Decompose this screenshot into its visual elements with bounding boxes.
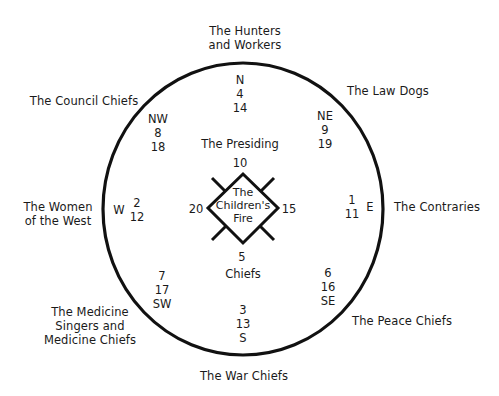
direction-south: 3 13 S [236, 303, 251, 345]
label-medicine-singers-and-medicine-chiefs: The Medicine Singers and Medicine Chiefs [44, 305, 136, 347]
presiding-caption: The Presiding [201, 137, 279, 151]
label-law-dogs: The Law Dogs [347, 84, 429, 98]
label-peace-chiefs: The Peace Chiefs [352, 314, 452, 328]
direction-southwest: 7 17 SW [153, 269, 172, 311]
direction-west-label: W [113, 203, 124, 217]
center-number-bottom: 5 [238, 250, 245, 264]
label-war-chiefs: The War Chiefs [200, 369, 288, 383]
childrens-fire-label: The Children's Fire [216, 186, 271, 225]
direction-northwest: NW 8 18 [148, 112, 168, 154]
chiefs-caption: Chiefs [225, 267, 261, 281]
direction-east-numbers: 1 11 [345, 193, 360, 221]
center-number-right: 15 [282, 202, 297, 216]
direction-west-numbers: 2 12 [130, 196, 145, 224]
center-number-top: 10 [233, 156, 248, 170]
label-hunters-and-workers: The Hunters and Workers [209, 24, 282, 52]
direction-northeast: NE 9 19 [317, 109, 333, 151]
label-council-chiefs: The Council Chiefs [30, 94, 138, 108]
direction-east-label: E [366, 200, 373, 214]
direction-north: N 4 14 [233, 73, 248, 115]
medicine-wheel-diagram: The Hunters and Workers The Law Dogs The… [0, 0, 499, 396]
label-women-of-the-west: The Women of the West [23, 200, 92, 228]
direction-southeast: 6 16 SE [321, 266, 336, 308]
center-number-left: 20 [189, 202, 204, 216]
label-contraries: The Contraries [394, 200, 480, 214]
